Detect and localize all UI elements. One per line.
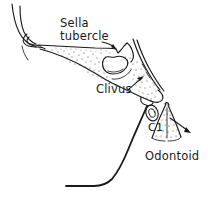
- clival-tip-curve: [151, 90, 163, 102]
- anatomical-figure: Sella tubercle Clivus C1 Odontoid: [0, 0, 208, 197]
- tuberculum-sellae-notch: [116, 43, 127, 53]
- sella-floor-detail: [108, 69, 123, 72]
- facial-profile-group: [12, 4, 45, 60]
- odontoid-base-right: [168, 137, 181, 141]
- skull-base-stipple: [52, 48, 111, 79]
- c1-arch-inner-outline: [148, 108, 156, 118]
- sella-turcica-outline: [103, 56, 128, 74]
- labels-group: Sella tubercle Clivus C1 Odontoid: [60, 16, 199, 163]
- upper-lip-line: [22, 46, 28, 60]
- label-sella-tubercle-line1: Sella: [60, 16, 89, 30]
- skull-base-diagram: Sella tubercle Clivus C1 Odontoid: [0, 0, 208, 197]
- label-sella-tubercle-line2: tubercle: [60, 29, 109, 43]
- label-odontoid: Odontoid: [145, 149, 199, 163]
- label-c1: C1: [148, 121, 163, 134]
- forehead-nose-outer-contour: [12, 4, 36, 47]
- odontoid-base-left: [152, 138, 165, 141]
- sella-turcica-group: [103, 56, 128, 74]
- clivus-arrowhead: [137, 76, 144, 81]
- planum-superior-border: [38, 45, 116, 49]
- posterior-pharyngeal-wall: [66, 106, 147, 186]
- planum-inferior-border: [40, 49, 110, 82]
- dorsum-sellae-posterior-line: [137, 40, 164, 91]
- label-clivus: Clivus: [96, 82, 132, 96]
- pharyngeal-wall-group: [66, 106, 147, 186]
- skull-base-group: [38, 43, 127, 82]
- odontoid-arrowhead: [184, 127, 191, 133]
- posterior-clinoid-hook: [127, 43, 133, 62]
